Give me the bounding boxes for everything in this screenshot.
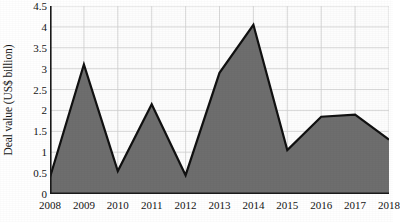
- y-tick-label: 4: [42, 21, 48, 32]
- x-tick-label: 2014: [242, 200, 264, 211]
- plot-area: [50, 6, 389, 194]
- y-tick-label: 1.5: [33, 126, 47, 137]
- x-tick-label: 2011: [141, 200, 163, 211]
- x-tick-label: 2012: [175, 200, 197, 211]
- x-axis-tick-labels: 2008200920102011201220132014201520162017…: [50, 198, 389, 218]
- x-tick-label: 2013: [209, 200, 231, 211]
- y-tick-label: 0.5: [33, 168, 47, 179]
- y-axis-title-label: Deal value (US$ billion): [2, 45, 14, 156]
- x-tick-label: 2010: [107, 200, 129, 211]
- x-tick-label: 2018: [378, 200, 400, 211]
- x-tick-label: 2015: [276, 200, 298, 211]
- x-tick-label: 2009: [73, 200, 95, 211]
- y-tick-label: 1: [42, 147, 48, 158]
- plot-svg: [50, 6, 389, 194]
- x-tick-label: 2008: [39, 200, 61, 211]
- y-tick-label: 4.5: [33, 1, 47, 12]
- y-tick-label: 0: [42, 189, 48, 200]
- y-tick-label: 3.5: [33, 42, 47, 53]
- y-tick-label: 2: [42, 105, 48, 116]
- y-axis-tick-labels: 00.511.522.533.544.5: [16, 0, 50, 200]
- y-tick-label: 3: [42, 63, 48, 74]
- y-axis-title: Deal value (US$ billion): [0, 0, 16, 200]
- x-tick-label: 2017: [344, 200, 366, 211]
- x-tick-label: 2016: [310, 200, 332, 211]
- y-tick-label: 2.5: [33, 84, 47, 95]
